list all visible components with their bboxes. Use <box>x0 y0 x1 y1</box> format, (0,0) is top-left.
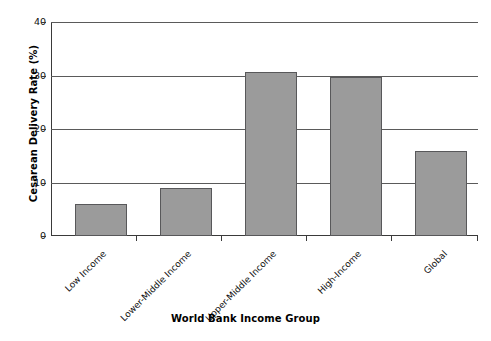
bar-low-income <box>75 204 127 236</box>
bar-global <box>415 151 467 236</box>
y-tick-mark-40 <box>41 22 46 23</box>
x-tick-mark-4 <box>391 236 392 241</box>
bar-high-income <box>330 77 382 236</box>
y-tick-mark-20 <box>41 129 46 130</box>
x-axis-label-low-income: Low Income <box>0 249 109 341</box>
bar-chart-figure: Cesarean Delivery Rate (%) 40 30 20 10 0 <box>0 0 491 341</box>
y-tick-mark-0 <box>41 236 46 237</box>
x-tick-mark-1 <box>136 236 137 241</box>
gridline-40 <box>51 22 478 23</box>
y-tick-mark-30 <box>41 76 46 77</box>
x-tick-mark-3 <box>306 236 307 241</box>
bar-upper-middle-income <box>245 72 297 236</box>
x-axis-title: World Bank Income Group <box>0 313 491 324</box>
plot-area <box>51 22 478 236</box>
y-axis-ticks: 40 30 20 10 0 <box>0 22 46 236</box>
x-tick-mark-5 <box>477 236 478 241</box>
bar-lower-middle-income <box>160 188 212 236</box>
x-tick-mark-2 <box>221 236 222 241</box>
y-tick-mark-10 <box>41 183 46 184</box>
